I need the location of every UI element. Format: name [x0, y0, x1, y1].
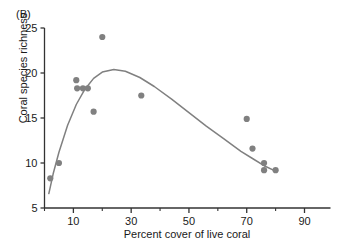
data-point: [47, 175, 53, 181]
data-point: [85, 85, 91, 91]
x-tick-label: 90: [298, 215, 310, 227]
data-point: [244, 116, 250, 122]
data-points: [47, 34, 279, 182]
data-point: [91, 109, 97, 115]
x-tick-label: 70: [241, 215, 253, 227]
x-tick-label: 50: [183, 215, 195, 227]
axis-ticks: [41, 28, 305, 213]
data-point: [273, 167, 279, 173]
data-point: [99, 34, 105, 40]
data-point: [138, 92, 144, 98]
axes: [45, 28, 331, 208]
y-tick-label: 5: [31, 202, 37, 214]
y-tick-label: 20: [25, 67, 37, 79]
scatter-plot: 5101520251030507090: [0, 0, 342, 247]
figure-panel-b: (B) Coral species richness Percent cover…: [0, 0, 342, 247]
data-point: [261, 167, 267, 173]
data-point: [249, 146, 255, 152]
y-tick-label: 10: [25, 157, 37, 169]
data-point: [56, 160, 62, 166]
data-point: [261, 160, 267, 166]
data-point: [74, 85, 80, 91]
y-tick-label: 25: [25, 22, 37, 34]
data-point: [73, 77, 79, 83]
x-tick-label: 10: [67, 215, 79, 227]
y-tick-label: 15: [25, 112, 37, 124]
x-tick-label: 30: [125, 215, 137, 227]
